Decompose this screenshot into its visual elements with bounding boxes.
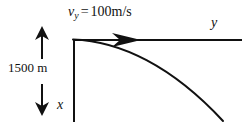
- projectile-motion-diagram: vy=100m/s 1500 m y x: [0, 0, 242, 128]
- axis-label-x: x: [57, 98, 63, 112]
- velocity-equals: =: [79, 4, 91, 19]
- velocity-label: vy=100m/s: [68, 5, 132, 21]
- velocity-value: 100m/s: [91, 4, 132, 19]
- trajectory-curve: [73, 40, 223, 122]
- height-label: 1500 m: [8, 61, 47, 74]
- velocity-subscript: y: [74, 10, 78, 21]
- axis-label-y: y: [211, 16, 217, 30]
